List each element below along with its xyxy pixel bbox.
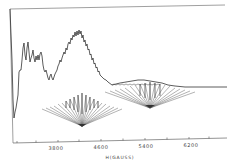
- x-tick-label-6200: 6200: [183, 142, 198, 148]
- stick-diagram-1-base: [78, 124, 86, 127]
- spectrum-trace: [10, 9, 227, 118]
- epr-spectrum-figure: [0, 0, 227, 164]
- x-tick-label-5400: 5400: [138, 143, 153, 149]
- frame-top: [10, 5, 225, 9]
- x-tick-label-3800: 3800: [48, 145, 63, 151]
- x-tick-label-4600: 4600: [93, 144, 108, 150]
- spectrum-ripple: [112, 84, 160, 85]
- stick-diagram-1-bars: [66, 93, 98, 114]
- x-axis-label: H(GAUSS): [106, 155, 135, 160]
